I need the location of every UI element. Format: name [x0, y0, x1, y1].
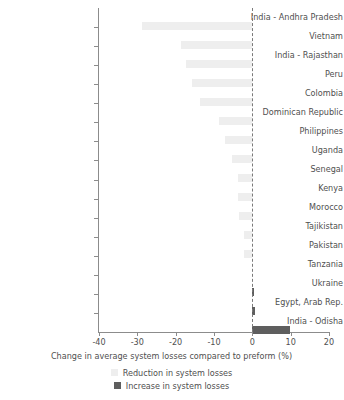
y-axis-tick-mark — [94, 65, 98, 66]
y-axis-tick-label: Uganda — [247, 146, 343, 155]
x-axis-tick-label: -10 — [199, 337, 229, 347]
x-axis-tick-label: 20 — [314, 337, 344, 347]
y-axis-tick-label: Peru — [247, 70, 343, 79]
y-axis-tick-mark — [94, 141, 98, 142]
y-axis-tick-mark — [94, 180, 98, 181]
y-axis-tick-label: Pakistan — [247, 241, 343, 250]
legend-swatch-increase-icon — [114, 382, 121, 389]
y-axis-tick-label: Colombia — [247, 89, 343, 98]
y-axis-tick-mark — [94, 313, 98, 314]
legend-item-increase: Increase in system losses — [0, 379, 343, 392]
x-axis-tick-mark — [99, 332, 100, 336]
x-axis-title: Change in average system losses compared… — [0, 351, 343, 361]
y-axis-tick-label: Tanzania — [247, 260, 343, 269]
bar-india-rajasthan — [186, 60, 252, 68]
bar-dominican-republic — [219, 117, 252, 125]
y-axis-tick-mark — [94, 199, 98, 200]
zero-reference-line — [252, 8, 253, 332]
x-axis-tick-label: -40 — [84, 337, 114, 347]
bar-vietnam — [181, 41, 253, 49]
y-axis-tick-mark — [94, 218, 98, 219]
x-axis-tick-mark — [291, 332, 292, 336]
y-axis-tick-label: Tajikistan — [247, 222, 343, 231]
x-axis-tick-label: -20 — [161, 337, 191, 347]
y-axis-tick-label: Vietnam — [247, 32, 343, 41]
x-axis-tick-mark — [214, 332, 215, 336]
chart-legend: Reduction in system losses Increase in s… — [0, 366, 343, 392]
y-axis-tick-label: Ukraine — [247, 279, 343, 288]
bar-morocco — [239, 212, 252, 220]
bar-tajikistan — [244, 231, 253, 239]
bar-india-odisha — [252, 326, 290, 334]
y-axis-tick-mark — [94, 275, 98, 276]
y-axis-tick-mark — [94, 160, 98, 161]
legend-item-reduction: Reduction in system losses — [0, 366, 343, 379]
y-axis-tick-label: India - Rajasthan — [247, 51, 343, 60]
bar-kenya — [238, 193, 253, 201]
y-axis-tick-label: Kenya — [247, 184, 343, 193]
y-axis-tick-label: Philippines — [247, 127, 343, 136]
y-axis-tick-mark — [94, 122, 98, 123]
y-axis-tick-label: India - Andhra Pradesh — [247, 13, 343, 22]
x-axis-tick-mark — [176, 332, 177, 336]
bar-india-andhra-pradesh — [142, 22, 253, 30]
bar-colombia — [200, 98, 252, 106]
y-axis-tick-mark — [94, 256, 98, 257]
legend-swatch-reduction-icon — [111, 369, 118, 376]
bar-pakistan — [244, 250, 253, 258]
y-axis-tick-label: Egypt, Arab Rep. — [247, 298, 343, 307]
x-axis-tick-label: 0 — [237, 337, 267, 347]
x-axis-tick-mark — [252, 332, 253, 336]
y-axis-tick-mark — [94, 294, 98, 295]
x-axis-tick-mark — [329, 332, 330, 336]
y-axis-tick-mark — [94, 27, 98, 28]
x-axis-tick-mark — [137, 332, 138, 336]
y-axis-tick-mark — [94, 46, 98, 47]
y-axis-tick-label: Dominican Republic — [247, 108, 343, 117]
y-axis-tick-label: Morocco — [247, 203, 343, 212]
y-axis-tick-label: Senegal — [247, 165, 343, 174]
x-axis-tick-label: 10 — [276, 337, 306, 347]
legend-label-reduction: Reduction in system losses — [123, 368, 233, 378]
legend-label-increase: Increase in system losses — [126, 381, 229, 391]
y-axis-tick-mark — [94, 103, 98, 104]
y-axis-tick-label: India - Odisha — [247, 317, 343, 326]
bar-senegal — [238, 174, 253, 182]
bar-philippines — [225, 136, 252, 144]
bar-peru — [192, 79, 252, 87]
y-axis-tick-mark — [94, 237, 98, 238]
y-axis-tick-mark — [94, 84, 98, 85]
bar-uganda — [232, 155, 253, 163]
x-axis-tick-label: -30 — [122, 337, 152, 347]
